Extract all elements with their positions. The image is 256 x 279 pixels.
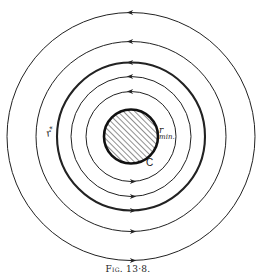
core-label-c: C: [146, 158, 153, 168]
r-min-label: rmin.: [159, 126, 175, 141]
caption-prefix: Fig.: [105, 264, 122, 274]
caption-number: 13·8.: [126, 264, 150, 274]
core-disk-c: [104, 110, 158, 164]
figure-caption: Fig. 13·8.: [0, 264, 256, 274]
orbit-diagram: [0, 0, 256, 279]
figure-13-8: r* rmin. C Fig. 13·8.: [0, 0, 256, 279]
r-min-subscript: min.: [159, 134, 175, 141]
